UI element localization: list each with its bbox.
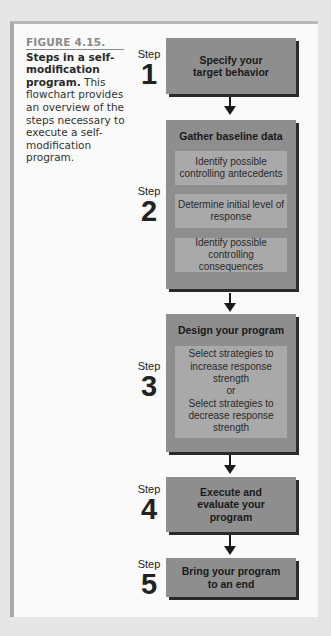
step-1-title: Specify your target behavior bbox=[188, 54, 274, 79]
substep-box: Determine initial level of response bbox=[175, 194, 287, 228]
figure-caption: FIGURE 4.15. Steps in a self-modificatio… bbox=[26, 36, 134, 164]
arrow-down-icon bbox=[226, 455, 234, 474]
step-2-title: Gather baseline data bbox=[179, 130, 282, 143]
arrow-down-icon bbox=[226, 293, 234, 312]
substep-text: Select strategies to increase response s… bbox=[175, 348, 287, 434]
step-3-title: Design your program bbox=[178, 324, 284, 337]
step-4-label: Step 4 bbox=[134, 483, 164, 523]
step-3-label: Step 3 bbox=[134, 360, 164, 400]
step-number: 3 bbox=[134, 372, 164, 400]
substep-text: Identify possible controlling consequenc… bbox=[175, 237, 287, 273]
step-4-title: Execute and evaluate your program bbox=[194, 486, 268, 524]
arrow-down-icon bbox=[226, 535, 234, 555]
substep-text: Determine initial level of response bbox=[175, 199, 287, 223]
step-5-title: Bring your program to an end bbox=[180, 565, 282, 590]
figure-label: FIGURE 4.15. bbox=[26, 36, 124, 50]
step-number: 5 bbox=[134, 570, 164, 598]
substep-box: Identify possible controlling consequenc… bbox=[175, 238, 287, 272]
step-number: 2 bbox=[134, 197, 164, 225]
arrow-down-icon bbox=[226, 97, 234, 115]
step-5-box: Bring your program to an end bbox=[166, 558, 296, 597]
step-5-label: Step 5 bbox=[134, 558, 164, 598]
substep-text: Identify possible controlling antecedent… bbox=[175, 156, 287, 180]
step-2-box: Gather baseline data Identify possible c… bbox=[166, 120, 296, 289]
substep-box: Identify possible controlling antecedent… bbox=[175, 151, 287, 185]
step-2-label: Step 2 bbox=[134, 185, 164, 225]
step-1-label: Step 1 bbox=[134, 48, 164, 88]
step-4-box: Execute and evaluate your program bbox=[166, 477, 296, 532]
step-1-box: Specify your target behavior bbox=[166, 38, 296, 94]
step-3-box: Design your program Select strategies to… bbox=[166, 314, 296, 452]
substep-box: Select strategies to increase response s… bbox=[175, 346, 287, 438]
caption-body: This flowchart provides an overview of t… bbox=[26, 76, 125, 164]
step-number: 1 bbox=[134, 60, 164, 88]
step-number: 4 bbox=[134, 495, 164, 523]
